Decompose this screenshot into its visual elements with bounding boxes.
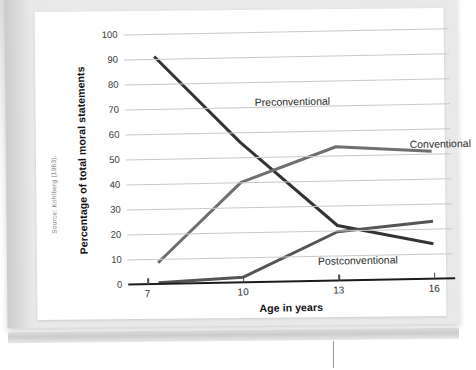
line-chart: Percentage of total moral statements 010… xyxy=(73,14,476,322)
x-axis-title: Age in years xyxy=(129,298,454,316)
y-tick-label: 20 xyxy=(79,230,121,240)
x-tick-label: 16 xyxy=(422,282,446,293)
y-tick-label: 60 xyxy=(77,130,119,140)
y-tick-label: 100 xyxy=(75,30,117,40)
series-labels: PreconventionalConventionalPostconventio… xyxy=(73,14,476,22)
y-tick-label: 10 xyxy=(80,255,122,265)
y-tick-label: 70 xyxy=(77,105,119,115)
x-tick xyxy=(243,276,245,282)
x-tick xyxy=(338,274,340,280)
y-tick-label: 0 xyxy=(80,280,122,290)
x-tick-label: 10 xyxy=(231,286,255,297)
y-tick-label: 90 xyxy=(76,55,118,65)
series-label-conventional: Conventional xyxy=(409,137,471,150)
x-axis-ticks: 7101316 xyxy=(73,14,476,22)
series-label-preconventional: Preconventional xyxy=(255,95,331,108)
y-axis: 0102030405060708090100 xyxy=(73,14,476,22)
x-tick-label: 13 xyxy=(327,284,351,295)
y-tick-label: 80 xyxy=(76,80,118,90)
y-tick-label: 50 xyxy=(78,155,120,165)
x-tick-label: 7 xyxy=(135,288,159,299)
x-tick xyxy=(147,278,149,284)
source-note: Source: Kohlberg (1963). xyxy=(50,155,58,234)
series-label-postconventional: Postconventional xyxy=(318,253,398,267)
y-tick-label: 40 xyxy=(78,180,120,190)
y-tick-label: 30 xyxy=(79,205,121,215)
gutter-rule xyxy=(333,341,334,368)
figure-card: Source: Kohlberg (1963). Percentage of t… xyxy=(35,8,447,320)
x-tick xyxy=(434,273,436,279)
